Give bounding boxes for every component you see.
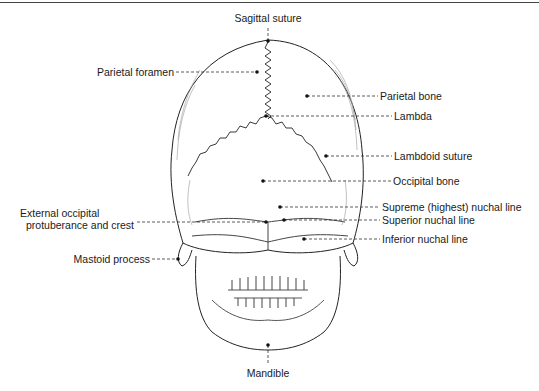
label-external-occipital-line2: protuberance and crest (26, 219, 134, 231)
label-mastoid-process: Mastoid process (74, 253, 150, 265)
label-mandible: Mandible (247, 367, 290, 379)
label-sagittal-suture: Sagittal suture (234, 12, 301, 24)
label-lambda: Lambda (394, 110, 432, 122)
label-occipital-bone: Occipital bone (393, 175, 460, 187)
label-inferior-nuchal-line: Inferior nuchal line (382, 233, 468, 245)
label-supreme-nuchal-line: Supreme (highest) nuchal line (382, 201, 522, 213)
label-external-occipital-line1: External occipital (20, 207, 99, 219)
label-superior-nuchal-line: Superior nuchal line (382, 214, 475, 226)
skull-illustration (0, 0, 539, 391)
label-parietal-bone: Parietal bone (380, 90, 442, 102)
label-parietal-foramen: Parietal foramen (97, 66, 174, 78)
label-lambdoid-suture: Lambdoid suture (394, 150, 472, 162)
